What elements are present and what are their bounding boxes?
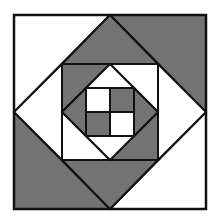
four-patch-bottom-right bbox=[110, 112, 134, 136]
four-patch-top-left bbox=[86, 88, 110, 112]
four-patch-top-right bbox=[110, 88, 134, 112]
quilt-block-diagram bbox=[0, 0, 218, 223]
four-patch-bottom-left bbox=[86, 112, 110, 136]
